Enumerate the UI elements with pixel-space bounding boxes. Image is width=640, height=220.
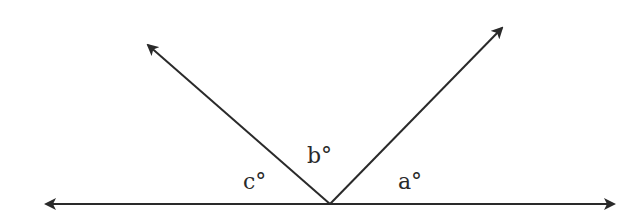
angle-diagram: c° b° a° — [0, 0, 640, 220]
left-ray — [148, 45, 330, 204]
angle-label-c: c° — [243, 169, 266, 194]
angle-label-a: a° — [398, 169, 422, 194]
angle-label-b: b° — [307, 143, 332, 168]
